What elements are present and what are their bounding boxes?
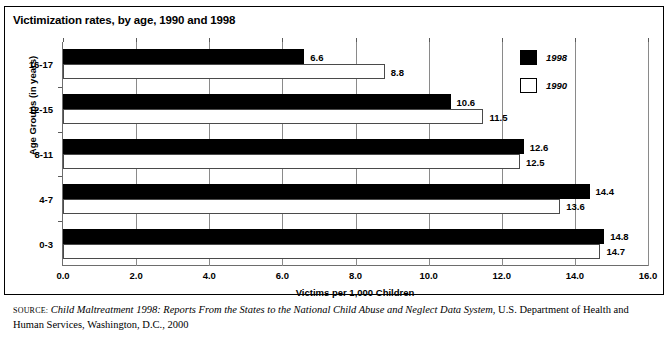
x-axis-tick <box>502 38 503 42</box>
source-kicker: SOURCE: <box>13 306 48 315</box>
source-title: Child Maltreatment 1998: Reports From th… <box>48 304 493 315</box>
x-axis-tick <box>429 38 430 42</box>
legend-swatch-1998 <box>520 50 537 65</box>
bar-1998-8-11 <box>63 139 524 154</box>
x-tick-label: 10.0 <box>419 270 438 281</box>
x-tick-label: 0.0 <box>56 270 69 281</box>
bar-1998-16-17 <box>63 49 304 64</box>
x-tick-label: 6.0 <box>276 270 289 281</box>
legend-item-1990: 1990 <box>520 78 567 93</box>
bar-1998-12-15 <box>63 94 451 109</box>
bar-value-label: 10.6 <box>457 96 476 107</box>
chart-figure: Victimization rates, by age, 1990 and 19… <box>0 0 668 340</box>
legend-item-1998: 1998 <box>520 50 567 65</box>
bar-value-label: 12.5 <box>526 156 545 167</box>
x-axis-tick <box>136 38 137 42</box>
bar-value-label: 14.4 <box>596 186 615 197</box>
y-axis-tick <box>58 221 62 222</box>
x-axis-tick <box>356 38 357 42</box>
gridline <box>648 42 649 266</box>
chart-legend: 19981990 <box>520 50 567 106</box>
legend-label: 1998 <box>546 52 567 63</box>
x-axis-tick <box>209 38 210 42</box>
y-category-label: 0-3 <box>39 238 53 249</box>
x-tick-label: 4.0 <box>203 270 216 281</box>
bar-1990-12-15 <box>63 109 483 124</box>
bar-value-label: 6.6 <box>310 51 323 62</box>
legend-label: 1990 <box>546 80 567 91</box>
bar-1990-16-17 <box>63 64 385 79</box>
y-axis-tick <box>58 132 62 133</box>
bar-value-label: 13.6 <box>566 201 585 212</box>
bar-value-label: 11.5 <box>489 111 507 122</box>
legend-swatch-1990 <box>520 78 537 93</box>
y-category-label: 4-7 <box>39 193 53 204</box>
bar-value-label: 8.8 <box>391 66 404 77</box>
x-axis-tick <box>648 38 649 42</box>
bar-value-label: 14.7 <box>606 246 625 257</box>
chart-title: Victimization rates, by age, 1990 and 19… <box>13 14 235 26</box>
y-axis-title: Age Groups (in years) <box>27 26 38 186</box>
bar-value-label: 12.6 <box>530 141 549 152</box>
bar-1990-4-7 <box>63 199 560 214</box>
bar-1998-0-3 <box>63 229 604 244</box>
x-axis-tick <box>575 38 576 42</box>
bar-1990-0-3 <box>63 244 600 259</box>
x-axis-title: Victims per 1,000 Children <box>62 287 648 298</box>
x-axis-tick <box>282 38 283 42</box>
source-note: SOURCE: Child Maltreatment 1998: Reports… <box>13 303 658 331</box>
x-axis-tick <box>63 38 64 42</box>
x-tick-label: 16.0 <box>639 270 658 281</box>
bar-1998-4-7 <box>63 184 590 199</box>
x-tick-label: 2.0 <box>130 270 143 281</box>
bar-1990-8-11 <box>63 154 520 169</box>
x-tick-label: 12.0 <box>493 270 512 281</box>
x-tick-label: 14.0 <box>566 270 585 281</box>
x-tick-label: 8.0 <box>349 270 362 281</box>
bar-value-label: 14.8 <box>610 231 629 242</box>
y-axis-tick <box>58 176 62 177</box>
y-axis-tick <box>58 87 62 88</box>
